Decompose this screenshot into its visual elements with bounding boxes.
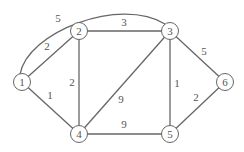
node-label-5: 5 [167, 128, 173, 140]
node-3: 3 [162, 23, 179, 40]
edge-weight-3-5: 1 [174, 77, 180, 89]
edge-weight-3-4: 9 [118, 93, 124, 105]
edge-weight-2-4: 2 [69, 76, 75, 88]
edge-weight-4-5: 9 [121, 118, 127, 130]
edge-5-6 [170, 82, 225, 134]
edge-weight-1-2: 2 [44, 40, 50, 52]
node-6: 6 [217, 74, 234, 91]
node-4: 4 [71, 126, 88, 143]
node-label-4: 4 [76, 128, 82, 140]
edge-1-2 [22, 31, 79, 82]
node-label-3: 3 [167, 25, 173, 37]
edge-weight-1-4: 1 [47, 89, 53, 101]
node-1: 1 [14, 74, 31, 91]
node-5: 5 [162, 126, 179, 143]
node-2: 2 [71, 23, 88, 40]
node-label-6: 6 [222, 76, 228, 88]
edge-weight-5-6: 2 [193, 91, 199, 103]
edge-3-6 [170, 31, 225, 82]
node-label-1: 1 [19, 76, 25, 88]
edges-layer [20, 14, 225, 134]
edge-weight-3-6: 5 [201, 45, 207, 57]
edge-1-3 [20, 14, 165, 74]
edge-weight-1-3: 5 [55, 12, 61, 24]
node-label-2: 2 [76, 25, 82, 37]
edge-weight-2-3: 3 [121, 16, 127, 28]
graph-diagram: 5213291592 123456 [0, 0, 244, 152]
edge-weights-layer: 5213291592 [44, 12, 207, 130]
